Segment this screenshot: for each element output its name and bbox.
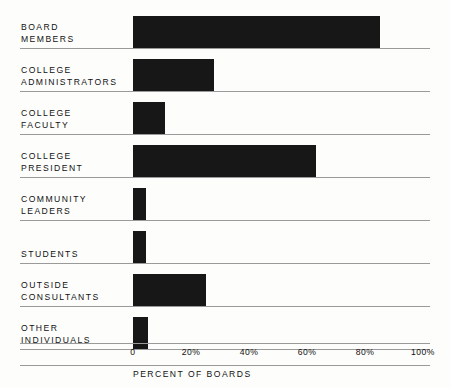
bar [133,59,214,91]
category-label-line2: FACULTY [21,120,131,132]
category-label-line2: CONSULTANTS [21,292,131,304]
chart-row: COLLEGEPRESIDENT [0,135,451,178]
category-label-line1: COLLEGE [21,108,131,120]
bar [133,231,146,263]
category-label-line2: MEMBERS [21,34,131,46]
category-label-line2: LEADERS [21,206,131,218]
category-label-line1: COLLEGE [21,151,131,163]
chart-row: COMMUNITYLEADERS [0,178,451,221]
category-label: COLLEGEPRESIDENT [21,151,131,174]
category-label: STUDENTS [21,249,131,261]
axis-tick-label: 0 [130,347,135,357]
axis-rule-top [20,343,430,344]
chart-row: COLLEGEFACULTY [0,92,451,135]
bar [133,145,316,177]
category-label-line1: BOARD [21,22,131,34]
bar [133,274,206,306]
chart-row: STUDENTS [0,221,451,264]
axis-rule-bottom [20,365,430,366]
bar [133,16,380,48]
axis-title: PERCENT OF BOARDS [133,369,252,379]
category-label-line1: COLLEGE [21,65,131,77]
category-label: OUTSIDECONSULTANTS [21,280,131,303]
bar [133,188,146,220]
category-label-line1: COMMUNITY [21,194,131,206]
category-label-line1: OTHER [21,323,131,335]
category-label: BOARDMEMBERS [21,22,131,45]
chart-row: OUTSIDECONSULTANTS [0,264,451,307]
axis-tick-label: 100% [411,347,435,357]
chart-row: BOARDMEMBERS [0,6,451,49]
category-label-line2: ADMINISTRATORS [21,77,131,89]
category-label: COMMUNITYLEADERS [21,194,131,217]
axis-tick-label: 20% [182,347,201,357]
category-label: COLLEGEADMINISTRATORS [21,65,131,88]
category-label: COLLEGEFACULTY [21,108,131,131]
x-axis: 020%40%60%80%100% PERCENT OF BOARDS [0,343,451,388]
category-label-line2: PRESIDENT [21,163,131,175]
bar-chart: BOARDMEMBERSCOLLEGEADMINISTRATORSCOLLEGE… [0,0,451,388]
axis-tick-label: 60% [298,347,317,357]
category-label-line1: OUTSIDE [21,280,131,292]
bar [133,102,165,134]
axis-tick-label: 40% [240,347,259,357]
category-label-line1: STUDENTS [21,249,131,261]
chart-row: COLLEGEADMINISTRATORS [0,49,451,92]
axis-tick-label: 80% [356,347,375,357]
